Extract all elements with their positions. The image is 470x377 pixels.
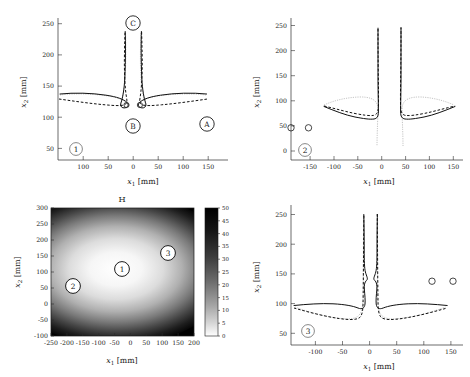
hm-xtick-6: 50 bbox=[142, 339, 150, 346]
hm-ytick-1: -50 bbox=[38, 316, 48, 323]
hm-ytick-2: 0 bbox=[44, 300, 48, 307]
cbar-tick-8: 40 bbox=[222, 231, 229, 237]
hm-xtick-9: 200 bbox=[188, 339, 200, 346]
hm-xtick-2: -150 bbox=[76, 339, 90, 346]
config-1-text: 1 bbox=[120, 265, 125, 274]
panel2-ytick-3: 150 bbox=[275, 72, 287, 79]
colorbar-gradient bbox=[205, 208, 218, 336]
panel2-point-markers bbox=[288, 125, 312, 131]
panel2-ylabel: x2 [mm] bbox=[252, 76, 262, 107]
hm-ytick-7: 250 bbox=[36, 220, 48, 227]
panel4-point-markers bbox=[429, 278, 456, 284]
cbar-tick-6: 30 bbox=[222, 256, 229, 262]
cbar-tick-2: 10 bbox=[222, 307, 229, 313]
panel1-ytick-3: 200 bbox=[42, 51, 54, 58]
label-B-text: B bbox=[130, 122, 135, 131]
panel-trajectory-3: 50 100 150 200 250 -100 -50 0 50 100 150 bbox=[235, 187, 470, 377]
hm-xtick-4: -50 bbox=[110, 339, 120, 346]
obstacle-marker-2 bbox=[450, 278, 456, 284]
panel4-ytick-4: 250 bbox=[275, 211, 287, 218]
panel4-xtick-4: 100 bbox=[418, 348, 430, 355]
cbar-tick-0: 0 bbox=[222, 333, 226, 339]
cbar-tick-3: 15 bbox=[222, 295, 229, 301]
panel4-y-ticks: 50 100 150 200 250 bbox=[275, 211, 295, 337]
cbar-tick-7: 35 bbox=[222, 243, 229, 249]
panel2-xlabel: x1 [mm] bbox=[363, 177, 394, 187]
panel4-ytick-1: 100 bbox=[275, 300, 287, 307]
panel2-xtick-6: 150 bbox=[447, 163, 459, 170]
panel2-xtick-3: 0 bbox=[380, 163, 384, 170]
panel2-xtick-1: -100 bbox=[327, 163, 341, 170]
panel1-xtick-1: 50 bbox=[104, 163, 112, 170]
panel4-index-text: 3 bbox=[306, 327, 311, 336]
panel1-index-text: 1 bbox=[74, 145, 79, 154]
hm-xtick-0: -250 bbox=[44, 339, 58, 346]
panel-heatmap: H 1 2 3 -100 -50 bbox=[0, 187, 240, 377]
label-C-text: C bbox=[130, 19, 136, 28]
hm-xtick-8: 150 bbox=[172, 339, 184, 346]
panel2-xtick-0: -150 bbox=[303, 163, 317, 170]
panel1-curves bbox=[59, 32, 208, 108]
panel4-ytick-2: 150 bbox=[275, 270, 287, 277]
hm-xtick-1: -200 bbox=[60, 339, 74, 346]
panel1-xtick-4: 100 bbox=[177, 163, 189, 170]
panel4-xtick-0: -100 bbox=[308, 348, 322, 355]
panel2-xtick-5: 100 bbox=[423, 163, 435, 170]
panel2-index-text: 2 bbox=[303, 146, 308, 155]
cbar-tick-9: 45 bbox=[222, 218, 229, 224]
heatmap-title: H bbox=[118, 194, 125, 204]
panel4-ylabel: x2 [mm] bbox=[252, 261, 262, 292]
hm-ytick-6: 200 bbox=[36, 236, 48, 243]
hm-ytick-4: 100 bbox=[36, 268, 48, 275]
heatmap-xlabel: x1 [mm] bbox=[106, 356, 137, 366]
panel2-axis-titles: x1 [mm] x2 [mm] bbox=[252, 76, 395, 186]
panel1-xtick-2: 0 bbox=[131, 163, 135, 170]
panel1-ytick-1: 100 bbox=[42, 114, 54, 121]
obstacle-marker-1 bbox=[429, 278, 435, 284]
hm-ytick-3: 50 bbox=[40, 284, 48, 291]
panel4-xtick-3: 50 bbox=[393, 348, 401, 355]
panel4-xlabel: x1 [mm] bbox=[363, 362, 394, 372]
panel4-x-ticks: -100 -50 0 50 100 150 bbox=[308, 341, 456, 355]
panel4-axis-titles: x1 [mm] x2 [mm] bbox=[252, 261, 395, 371]
panel1-ytick-4: 250 bbox=[42, 20, 54, 27]
panel-trajectory-1: 50 100 150 200 250 100 50 0 50 100 150 bbox=[0, 0, 235, 190]
panel4-xtick-5: 150 bbox=[445, 348, 457, 355]
panel2-ytick-2: 100 bbox=[275, 97, 287, 104]
cbar-tick-5: 25 bbox=[222, 269, 229, 275]
panel1-ytick-0: 50 bbox=[46, 145, 54, 152]
panel2-ytick-0: 0 bbox=[283, 147, 287, 154]
panel-trajectory-2: 0 50 100 150 200 250 -150 -100 -50 0 50 bbox=[235, 0, 470, 190]
panel2-ytick-4: 200 bbox=[275, 47, 287, 54]
figure-canvas: 50 100 150 200 250 100 50 0 50 100 150 bbox=[0, 0, 470, 377]
panel1-y-ticks: 50 100 150 200 250 bbox=[42, 20, 62, 152]
panel2-xtick-2: -50 bbox=[353, 163, 363, 170]
cbar-tick-10: 50 bbox=[222, 205, 229, 211]
panel4-ytick-3: 200 bbox=[275, 241, 287, 248]
panel4-xtick-1: -50 bbox=[338, 348, 348, 355]
panel4-curves bbox=[294, 214, 447, 320]
config-3-text: 3 bbox=[166, 249, 171, 258]
panel1-xtick-5: 150 bbox=[202, 163, 214, 170]
cbar-tick-1: 5 bbox=[222, 320, 226, 326]
panel1-xlabel: x1 [mm] bbox=[127, 177, 158, 187]
colorbar: 0 5 10 15 20 25 30 35 40 45 50 bbox=[205, 205, 229, 339]
panel1-xtick-0: 100 bbox=[77, 163, 89, 170]
hm-xtick-3: -100 bbox=[92, 339, 106, 346]
panel2-ytick-5: 250 bbox=[275, 22, 287, 29]
panel1-ytick-2: 150 bbox=[42, 82, 54, 89]
panel1-x-ticks: 100 50 0 50 100 150 bbox=[77, 156, 214, 170]
panel4-annotations: 3 bbox=[302, 325, 315, 338]
panel2-xtick-4: 50 bbox=[402, 163, 410, 170]
config-2-text: 2 bbox=[71, 282, 76, 291]
panel2-ytick-1: 50 bbox=[279, 122, 287, 129]
hm-ytick-8: 300 bbox=[36, 204, 48, 211]
label-A-text: A bbox=[203, 120, 210, 129]
obstacle-marker-2 bbox=[305, 125, 311, 131]
panel4-ytick-0: 50 bbox=[279, 330, 287, 337]
panel2-y-ticks: 0 50 100 150 200 250 bbox=[275, 22, 295, 155]
cbar-tick-4: 20 bbox=[222, 282, 229, 288]
hm-xtick-5: 0 bbox=[128, 339, 132, 346]
heatmap-ylabel: x2 [mm] bbox=[13, 256, 23, 287]
panel2-annotations: 2 bbox=[299, 144, 312, 157]
